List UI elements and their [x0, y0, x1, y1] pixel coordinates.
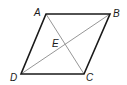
vertex-label-a: A: [33, 7, 41, 18]
intersection-label-e: E: [52, 38, 59, 49]
parallelogram-diagram: A B C D E: [0, 0, 127, 85]
vertex-label-c: C: [86, 72, 94, 83]
vertex-label-d: D: [10, 72, 17, 83]
vertex-label-b: B: [113, 8, 120, 19]
